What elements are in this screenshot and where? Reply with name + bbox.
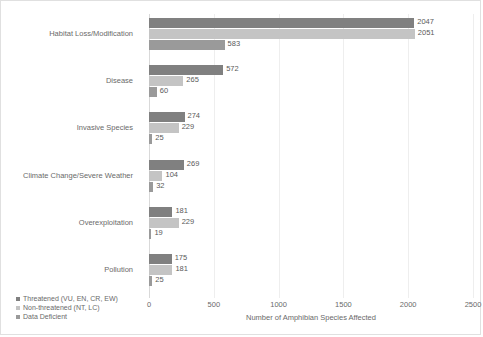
- bar-value-label: 229: [182, 122, 195, 132]
- bar-row: 181: [149, 207, 473, 217]
- bar-row: 181: [149, 265, 473, 275]
- x-tick-label: 0: [147, 300, 151, 310]
- legend-label: Data Deficient: [23, 312, 67, 322]
- chart-container: 20472051583Habitat Loss/Modification5722…: [0, 0, 481, 335]
- bar[interactable]: [149, 218, 179, 228]
- x-tick-label: 1000: [270, 300, 287, 310]
- gridline-2500: [473, 14, 474, 298]
- chart-legend: Threatened (VU, EN, CR, EW)Non-threatene…: [16, 295, 141, 322]
- bar-row: 274: [149, 112, 473, 122]
- bar[interactable]: [149, 112, 185, 122]
- bar-row: 175: [149, 254, 473, 264]
- bar[interactable]: [149, 182, 153, 192]
- x-tick-label: 500: [208, 300, 221, 310]
- bar-row: 229: [149, 123, 473, 133]
- bar-row: 104: [149, 171, 473, 181]
- bar-group: 17518125Pollution: [149, 254, 473, 287]
- bar-value-label: 25: [155, 133, 163, 143]
- x-tick-label: 2500: [465, 300, 482, 310]
- legend-swatch-icon: [16, 315, 20, 319]
- bar-value-label: 60: [160, 86, 168, 96]
- bar[interactable]: [149, 229, 151, 239]
- bar-value-label: 265: [186, 75, 199, 85]
- category-label: Pollution: [0, 265, 133, 274]
- bar-value-label: 274: [188, 111, 201, 121]
- bar-value-label: 175: [175, 253, 188, 263]
- bar[interactable]: [149, 76, 183, 86]
- bar-value-label: 104: [165, 170, 178, 180]
- bar[interactable]: [149, 207, 172, 217]
- bar-value-label: 32: [156, 181, 164, 191]
- bar-row: 25: [149, 276, 473, 286]
- bar-row: 60: [149, 87, 473, 97]
- bar[interactable]: [149, 65, 223, 75]
- bar-row: 32: [149, 182, 473, 192]
- bar-row: 2051: [149, 29, 473, 39]
- bar-value-label: 181: [175, 264, 188, 274]
- bar[interactable]: [149, 276, 152, 286]
- bar-value-label: 2051: [418, 28, 435, 38]
- bar-row: 19: [149, 229, 473, 239]
- bar[interactable]: [149, 171, 162, 181]
- bar-row: 265: [149, 76, 473, 86]
- bar-group: 20472051583Habitat Loss/Modification: [149, 18, 473, 51]
- category-label: Habitat Loss/Modification: [0, 29, 133, 38]
- bar-value-label: 583: [228, 39, 241, 49]
- bar-row: 572: [149, 65, 473, 75]
- bar[interactable]: [149, 134, 152, 144]
- bar-row: 269: [149, 160, 473, 170]
- bar-value-label: 229: [182, 217, 195, 227]
- bar[interactable]: [149, 254, 172, 264]
- bar-value-label: 2047: [417, 17, 434, 27]
- bar-row: 2047: [149, 18, 473, 28]
- bar-group: 26910432Climate Change/Severe Weather: [149, 160, 473, 193]
- bar-value-label: 269: [187, 159, 200, 169]
- x-tick-label: 2000: [400, 300, 417, 310]
- bar[interactable]: [149, 29, 415, 39]
- bar-value-label: 25: [155, 275, 163, 285]
- plot-area: 20472051583Habitat Loss/Modification5722…: [149, 14, 473, 298]
- bar-group: 57226560Disease: [149, 65, 473, 98]
- bar-group: 18122919Overexploitation: [149, 207, 473, 240]
- x-tick-label: 1500: [335, 300, 352, 310]
- bar-group: 27422925Invasive Species: [149, 112, 473, 145]
- bar[interactable]: [149, 265, 172, 275]
- legend-item[interactable]: Data Deficient: [16, 313, 141, 322]
- bar[interactable]: [149, 123, 179, 133]
- bar-row: 583: [149, 40, 473, 50]
- category-label: Disease: [0, 76, 133, 85]
- bar[interactable]: [149, 18, 414, 28]
- bar-value-label: 572: [226, 64, 239, 74]
- bar[interactable]: [149, 160, 184, 170]
- bar-value-label: 181: [175, 206, 188, 216]
- bar-row: 25: [149, 134, 473, 144]
- category-label: Climate Change/Severe Weather: [0, 171, 133, 180]
- category-label: Overexploitation: [0, 218, 133, 227]
- x-axis-title: Number of Amphibian Species Affected: [149, 313, 473, 322]
- bar-value-label: 19: [154, 228, 162, 238]
- bar[interactable]: [149, 40, 225, 50]
- bar[interactable]: [149, 87, 157, 97]
- legend-swatch-icon: [16, 306, 20, 310]
- x-axis-tick-labels: 05001000150020002500: [149, 300, 473, 312]
- category-label: Invasive Species: [0, 123, 133, 132]
- bar-row: 229: [149, 218, 473, 228]
- legend-swatch-icon: [16, 297, 20, 301]
